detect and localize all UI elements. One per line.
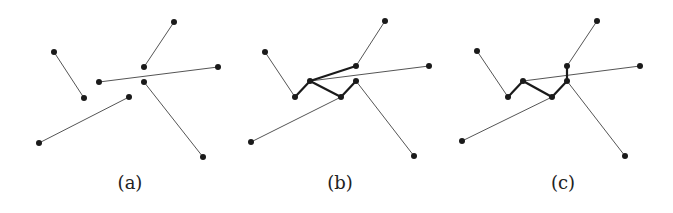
segment-edge bbox=[462, 97, 552, 141]
vertex-point bbox=[426, 63, 432, 69]
vertex-point bbox=[215, 64, 221, 70]
vertex-point bbox=[141, 64, 147, 70]
vertex-point bbox=[564, 78, 570, 84]
vertex-point bbox=[81, 95, 87, 101]
vertex-point bbox=[292, 94, 298, 100]
panel-b bbox=[248, 18, 432, 159]
panel-a bbox=[36, 19, 221, 160]
vertex-point bbox=[520, 78, 526, 84]
segment-edge bbox=[265, 52, 295, 97]
vertex-point bbox=[505, 94, 511, 100]
vertex-point bbox=[353, 78, 359, 84]
vertex-point bbox=[126, 94, 132, 100]
segment-edge bbox=[144, 82, 203, 157]
connector-edge bbox=[508, 81, 523, 97]
segment-edge bbox=[310, 66, 429, 81]
panel-c bbox=[459, 18, 643, 159]
vertex-point bbox=[262, 49, 268, 55]
vertex-point bbox=[411, 153, 417, 159]
caption-c: (c) bbox=[533, 172, 593, 193]
vertex-point bbox=[248, 139, 254, 145]
vertex-point bbox=[200, 154, 206, 160]
vertex-point bbox=[564, 63, 570, 69]
caption-b: (b) bbox=[310, 172, 370, 193]
segment-edge bbox=[567, 21, 597, 66]
vertex-point bbox=[622, 153, 628, 159]
segment-edge bbox=[356, 81, 414, 156]
connector-edge bbox=[295, 81, 310, 97]
vertex-point bbox=[307, 78, 313, 84]
vertex-point bbox=[141, 79, 147, 85]
vertex-point bbox=[474, 48, 480, 54]
vertex-point bbox=[382, 18, 388, 24]
vertex-point bbox=[459, 138, 465, 144]
segment-edge bbox=[523, 66, 640, 81]
connector-edge bbox=[552, 81, 567, 97]
segment-edge bbox=[251, 97, 341, 142]
vertex-point bbox=[171, 19, 177, 25]
segment-edge bbox=[54, 52, 84, 98]
segment-edge bbox=[39, 97, 129, 143]
vertex-point bbox=[51, 49, 57, 55]
connector-edge bbox=[310, 66, 356, 81]
vertex-point bbox=[549, 94, 555, 100]
segment-edge bbox=[99, 67, 218, 82]
segment-edge bbox=[144, 22, 174, 67]
vertex-point bbox=[353, 63, 359, 69]
connector-edge bbox=[523, 81, 552, 97]
vertex-point bbox=[637, 63, 643, 69]
connector-edge bbox=[310, 81, 341, 97]
vertex-point bbox=[338, 94, 344, 100]
segment-edge bbox=[356, 21, 385, 66]
vertex-point bbox=[36, 140, 42, 146]
caption-a: (a) bbox=[100, 172, 160, 193]
vertex-point bbox=[594, 18, 600, 24]
segment-edge bbox=[567, 81, 625, 156]
connector-edge bbox=[341, 81, 356, 97]
segment-edge bbox=[477, 51, 508, 97]
vertex-point bbox=[96, 79, 102, 85]
